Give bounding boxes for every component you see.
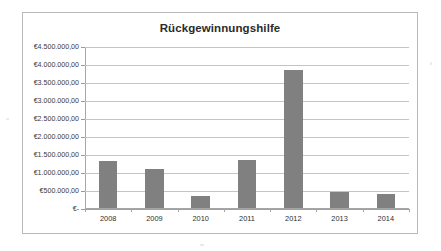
bar-series [85, 47, 409, 209]
y-axis-label: €1.500.000,00 [34, 151, 79, 159]
x-axis-label-2010: 2010 [192, 214, 208, 223]
x-axis-label-2009: 2009 [146, 214, 162, 223]
x-axis-label-2008: 2008 [100, 214, 116, 223]
x-axis-label-2012: 2012 [285, 214, 301, 223]
x-axis-label-2013: 2013 [331, 214, 347, 223]
bar-2008[interactable] [99, 161, 118, 209]
y-axis-label: €2.500.000,00 [34, 115, 79, 123]
y-axis-label: €4.500.000,00 [34, 43, 79, 51]
y-axis-label: €2.000.000,00 [34, 133, 79, 141]
x-axis-tick [270, 209, 271, 212]
x-axis-line [85, 208, 409, 209]
x-axis-tick [363, 209, 364, 212]
gridline [85, 209, 409, 210]
bar-2014[interactable] [377, 194, 396, 209]
x-axis-tick [316, 209, 317, 212]
chart-page: Rückgewinnungshilfe €-€500.000,00€1.000.… [0, 0, 441, 251]
plot-area: €-€500.000,00€1.000.000,00€1.500.000,00€… [85, 47, 409, 209]
y-axis-label: €1.000.000,00 [34, 169, 79, 177]
x-axis-tick [178, 209, 179, 212]
bar-2009[interactable] [145, 169, 164, 209]
x-axis-label-2014: 2014 [378, 214, 394, 223]
scan-speck [6, 118, 9, 120]
y-axis-label: €- [73, 205, 79, 213]
scan-speck [200, 244, 204, 246]
x-axis-label-2011: 2011 [239, 214, 255, 223]
y-axis-label: €4.000.000,00 [34, 61, 79, 69]
bar-2011[interactable] [238, 160, 257, 209]
y-axis-label: €500.000,00 [40, 187, 79, 195]
x-axis-tick [85, 209, 86, 212]
x-axis-tick [131, 209, 132, 212]
chart-title: Rückgewinnungshilfe [23, 22, 417, 34]
y-axis-label: €3.500.000,00 [34, 79, 79, 87]
y-axis-label: €3.000.000,00 [34, 97, 79, 105]
bar-2012[interactable] [284, 70, 303, 209]
x-axis-tick [224, 209, 225, 212]
scan-speck [430, 62, 432, 65]
x-axis-tick [409, 209, 410, 212]
bar-2013[interactable] [330, 192, 349, 209]
